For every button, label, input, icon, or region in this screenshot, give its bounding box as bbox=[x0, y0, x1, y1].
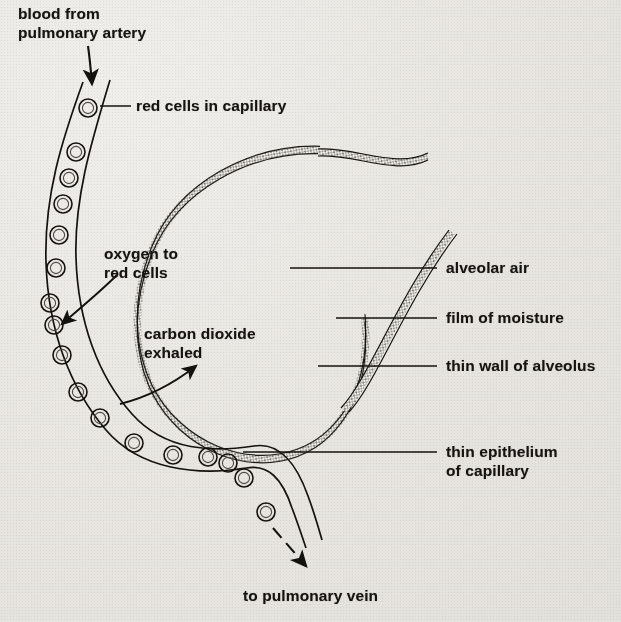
label-blood-from-pulmonary-artery: blood from pulmonary artery bbox=[18, 4, 146, 42]
figure-canvas: blood from pulmonary artery red cells in… bbox=[0, 0, 621, 622]
label-to-pulmonary-vein: to pulmonary vein bbox=[243, 586, 378, 605]
label-thin-wall-of-alveolus: thin wall of alveolus bbox=[446, 356, 595, 375]
label-oxygen-to-red-cells: oxygen to red cells bbox=[104, 244, 178, 282]
alveolus-wall bbox=[137, 146, 457, 463]
label-film-of-moisture: film of moisture bbox=[446, 308, 564, 327]
label-alveolar-air: alveolar air bbox=[446, 258, 529, 277]
label-thin-epithelium-of-capillary: thin epithelium of capillary bbox=[446, 442, 558, 480]
inflow-arrow bbox=[88, 46, 92, 84]
label-carbon-dioxide-exhaled: carbon dioxide exhaled bbox=[144, 324, 256, 362]
label-red-cells-in-capillary: red cells in capillary bbox=[136, 96, 286, 115]
